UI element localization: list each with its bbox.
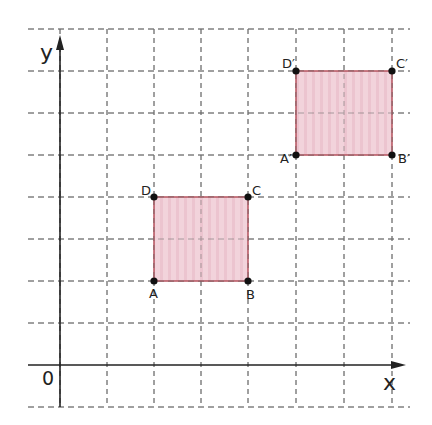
y-axis-arrow-icon xyxy=(56,35,64,50)
label-c: C xyxy=(252,183,261,198)
point-b xyxy=(244,277,251,284)
label-b: B xyxy=(246,287,255,302)
point-d xyxy=(150,193,157,200)
label-a: A xyxy=(149,286,158,301)
point-c-prime xyxy=(388,67,395,74)
label-d: D xyxy=(141,183,151,198)
x-axis-label: x xyxy=(383,370,396,395)
origin-label: 0 xyxy=(42,367,54,389)
label-b-prime: B′ xyxy=(398,151,410,166)
label-a-prime: A′ xyxy=(280,151,292,166)
point-b-prime xyxy=(388,151,395,158)
x-axis-arrow-icon xyxy=(391,361,406,369)
y-axis-label: y xyxy=(40,40,53,65)
point-c xyxy=(244,193,251,200)
point-a-prime xyxy=(292,151,299,158)
coordinate-diagram: y x 0 A B C D A′ B′ C′ D′ xyxy=(0,0,432,425)
label-c-prime: C′ xyxy=(396,56,408,71)
point-a xyxy=(150,277,157,284)
label-d-prime: D′ xyxy=(282,56,295,71)
